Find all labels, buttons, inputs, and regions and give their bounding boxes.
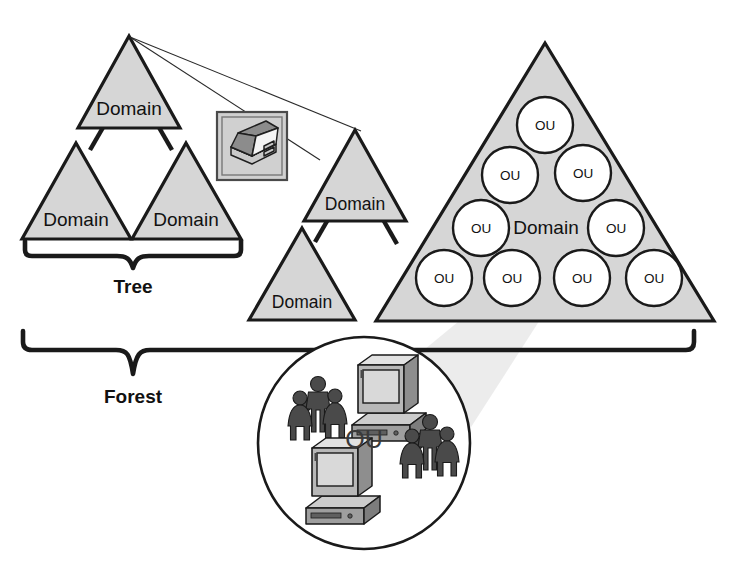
- ou-node[interactable]: OU: [626, 250, 682, 306]
- domain-triangle-tree-two-root[interactable]: Domain: [304, 130, 406, 221]
- big-domain-label: Domain: [513, 217, 578, 238]
- ou-label: OU: [606, 221, 626, 236]
- ou-node[interactable]: OU: [555, 145, 611, 201]
- ou-label: OU: [573, 166, 593, 181]
- ou-label: OU: [572, 271, 592, 286]
- tree-brace: Tree: [25, 241, 241, 297]
- ou-node[interactable]: OU: [517, 97, 573, 153]
- ou-detail-callout[interactable]: OU: [258, 337, 470, 549]
- domain-with-ous[interactable]: Domain OU OU OU OU OU OU: [376, 43, 714, 321]
- domain-label: Domain: [325, 194, 385, 214]
- ou-label: OU: [502, 271, 522, 286]
- ou-label: OU: [535, 118, 555, 133]
- ou-node[interactable]: OU: [416, 250, 472, 306]
- tree-one: Domain Domain Domain Tree: [22, 36, 241, 297]
- diagram-root: Domain Domain Domain Tree: [0, 0, 743, 577]
- forest-brace-label: Forest: [104, 386, 163, 407]
- ou-node[interactable]: OU: [588, 200, 644, 256]
- ou-node[interactable]: OU: [554, 250, 610, 306]
- domain-label: Domain: [272, 292, 332, 312]
- ou-label: OU: [644, 271, 664, 286]
- diagram-canvas: Domain Domain Domain Tree: [0, 0, 743, 577]
- ou-detail-label: OU: [345, 425, 383, 453]
- domain-triangle-tree-one-child-left[interactable]: Domain: [22, 143, 131, 239]
- ou-label: OU: [434, 271, 454, 286]
- domain-label: Domain: [96, 98, 161, 119]
- ou-label: OU: [500, 168, 520, 183]
- ou-label: OU: [471, 221, 491, 236]
- domain-label: Domain: [153, 209, 218, 230]
- ou-node[interactable]: OU: [482, 147, 538, 203]
- tree-brace-label: Tree: [113, 276, 152, 297]
- domain-label: Domain: [43, 209, 108, 230]
- domain-triangle-tree-one-root[interactable]: Domain: [78, 36, 180, 128]
- ou-node[interactable]: OU: [453, 200, 509, 256]
- book-icon[interactable]: [217, 112, 287, 180]
- domain-triangle-tree-two-child[interactable]: Domain: [249, 228, 355, 320]
- ou-node[interactable]: OU: [484, 250, 540, 306]
